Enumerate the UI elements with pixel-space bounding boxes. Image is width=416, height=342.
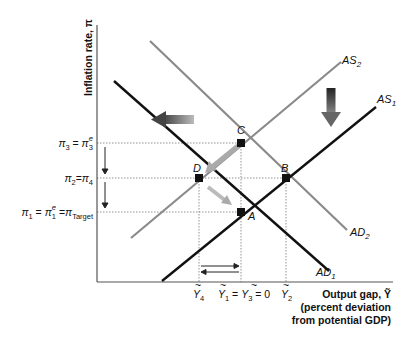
label-a: A: [247, 210, 255, 222]
label-d: D: [193, 162, 201, 174]
label-ad2: AD2: [349, 226, 370, 241]
point-c: [237, 139, 245, 147]
x-axis-label-line2: (percent deviation: [301, 301, 391, 313]
point-a: [237, 208, 245, 216]
y-axis-label: Inflation rate, π: [82, 19, 94, 96]
y-tick-pi3: π3 = π3e: [58, 134, 93, 152]
x-adjust-arrows: [201, 264, 239, 275]
x-tick-y1-tilde: ~: [220, 279, 226, 291]
label-as1: AS1: [376, 93, 396, 108]
guide-lines: [97, 143, 286, 282]
y-adjust-arrows: [102, 147, 108, 208]
y-tick-pi2: π2=π4: [64, 172, 93, 187]
arrow-c-to-d-icon: [205, 146, 238, 173]
as-ad-diagram: C D B A AS2 AS1 AD2 AD1 Inflation rate, …: [0, 0, 416, 342]
x-tick-y2-tilde: ~: [283, 279, 289, 291]
x-tick-y4-tilde: ~: [195, 279, 201, 291]
label-as2: AS2: [341, 54, 362, 69]
label-ad1: AD1: [315, 266, 336, 281]
x-axis-label-line1: Output gap, Ỹ: [322, 288, 391, 300]
x-axis-label-line3: from potential GDP): [292, 314, 391, 326]
point-b: [282, 174, 290, 182]
arrow-down-icon: [321, 88, 341, 127]
arrow-left-icon: [151, 111, 194, 128]
arrow-d-to-a-icon: [208, 187, 232, 205]
ad2-curve: [150, 41, 347, 230]
label-b: B: [281, 162, 288, 174]
as1-curve: [162, 107, 376, 281]
point-d: [195, 174, 203, 182]
x-tick-y3-tilde: ~: [251, 279, 257, 291]
label-c: C: [237, 124, 245, 136]
y-tick-pi1: π1 = π1e =πTarget: [21, 203, 93, 221]
